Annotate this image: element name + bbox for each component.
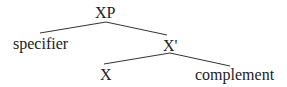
edge-xbar-complement — [170, 53, 230, 66]
node-x: X — [100, 67, 112, 83]
node-complement: complement — [195, 67, 274, 83]
edge-xp-specifier — [40, 22, 106, 33]
edge-xbar-x — [104, 53, 170, 64]
node-xbar: X' — [163, 38, 177, 54]
node-specifier: specifier — [13, 36, 68, 52]
node-xp: XP — [95, 5, 115, 21]
edge-xp-xbar — [106, 22, 167, 35]
